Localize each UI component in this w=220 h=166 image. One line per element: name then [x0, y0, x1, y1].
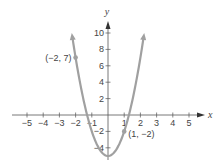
x-tick-label: −5	[22, 118, 32, 128]
curve-arrow-icon	[140, 33, 146, 40]
y-axis-arrow-icon	[106, 21, 111, 29]
curve-arrow-icon	[70, 33, 76, 40]
y-tick-label: 10	[94, 28, 104, 38]
point-label: (1, −2)	[128, 129, 154, 139]
x-tick-label: 5	[186, 118, 191, 128]
x-tick-label: −2	[70, 118, 80, 128]
axes: xy−5−4−3−2−112345108642−2−4	[12, 6, 213, 160]
point-label: (−2, 7)	[45, 53, 71, 63]
x-tick-label: −3	[54, 118, 64, 128]
y-tick-label: 4	[99, 77, 104, 87]
y-tick-label: 6	[99, 61, 104, 71]
x-axis-title: x	[207, 109, 213, 120]
y-tick-label: 2	[99, 94, 104, 104]
parabola-chart: xy−5−4−3−2−112345108642−2−4 (−2, 7)(1, −…	[0, 0, 220, 166]
x-tick-label: −4	[38, 118, 48, 128]
x-tick-label: 4	[170, 118, 175, 128]
x-tick-label: 3	[154, 118, 159, 128]
point-marker	[122, 129, 127, 134]
point-marker	[73, 55, 78, 60]
x-axis-arrow-icon	[197, 113, 205, 118]
x-tick-label: 2	[138, 118, 143, 128]
y-tick-label: −2	[94, 126, 104, 136]
y-tick-label: 8	[99, 44, 104, 54]
y-axis-title: y	[104, 6, 110, 17]
